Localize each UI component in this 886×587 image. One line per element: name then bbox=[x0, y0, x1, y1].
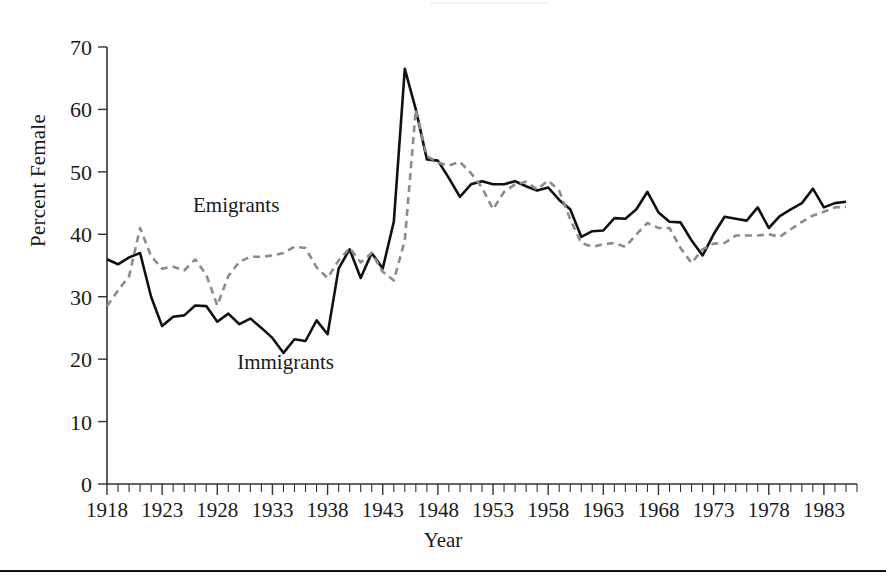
y-tick-label: 60 bbox=[70, 97, 92, 122]
x-tick-label: 1968 bbox=[637, 498, 679, 522]
x-tick-label: 1953 bbox=[472, 498, 514, 522]
x-tick-label: 1923 bbox=[141, 498, 183, 522]
line-chart: 010203040506070 191819231928193319381943… bbox=[0, 0, 886, 587]
axes bbox=[107, 47, 857, 484]
page-rule bbox=[0, 570, 886, 572]
y-tick-label: 50 bbox=[70, 160, 92, 185]
x-axis-ticks: 1918192319281933193819431948195319581963… bbox=[86, 484, 857, 522]
y-tick-label: 70 bbox=[70, 35, 92, 60]
y-tick-label: 10 bbox=[70, 410, 92, 435]
x-tick-label: 1963 bbox=[582, 498, 624, 522]
y-tick-label: 0 bbox=[81, 472, 92, 497]
x-axis-label: Year bbox=[0, 528, 886, 553]
x-tick-label: 1938 bbox=[307, 498, 349, 522]
series-annotations: EmigrantsImmigrants bbox=[193, 193, 334, 373]
x-tick-label: 1973 bbox=[693, 498, 735, 522]
y-axis-label: Percent Female bbox=[26, 81, 51, 281]
y-tick-label: 20 bbox=[70, 347, 92, 372]
x-tick-label: 1983 bbox=[803, 498, 845, 522]
annotation-immigrants: Immigrants bbox=[237, 350, 334, 374]
y-tick-label: 40 bbox=[70, 222, 92, 247]
figure-container: 010203040506070 191819231928193319381943… bbox=[0, 0, 886, 587]
x-tick-label: 1918 bbox=[86, 498, 128, 522]
x-tick-label: 1978 bbox=[748, 498, 790, 522]
annotation-emigrants: Emigrants bbox=[193, 193, 279, 217]
x-tick-label: 1933 bbox=[251, 498, 293, 522]
x-tick-label: 1943 bbox=[362, 498, 404, 522]
y-axis-ticks: 010203040506070 bbox=[70, 35, 107, 497]
x-tick-label: 1948 bbox=[417, 498, 459, 522]
x-tick-label: 1958 bbox=[527, 498, 569, 522]
x-tick-label: 1928 bbox=[196, 498, 238, 522]
y-tick-label: 30 bbox=[70, 285, 92, 310]
